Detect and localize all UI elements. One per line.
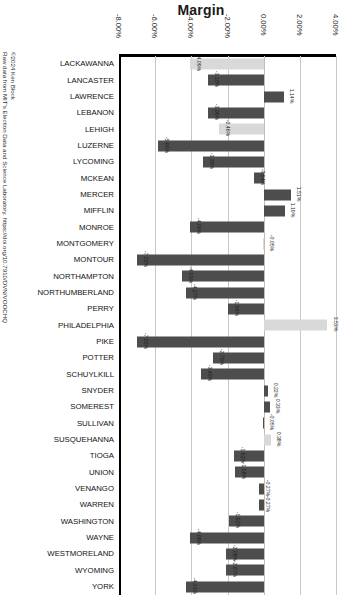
bar-row: 1.51% <box>119 187 336 203</box>
x-tick-label: -6.00% <box>150 14 159 38</box>
bar-mifflin[interactable] <box>264 206 286 217</box>
bar-snyder[interactable] <box>264 385 268 396</box>
bar-washington[interactable] <box>229 516 264 527</box>
bar-row: -4.27% <box>119 285 336 301</box>
x-tick-label: -2.00% <box>223 14 232 38</box>
category-label-snyder: SNYDER <box>82 386 115 395</box>
category-label-luzerne: LUZERNE <box>78 141 114 150</box>
bar-row: -3.38% <box>119 154 336 170</box>
bar-value-label: -0.27% <box>265 480 271 496</box>
category-label-union: UNION <box>89 468 114 477</box>
category-label-warren: WARREN <box>80 500 114 509</box>
category-label-potter: POTTER <box>82 353 114 362</box>
bar-value-label: -4.09% <box>196 55 202 71</box>
bar-value-label: -4.53% <box>188 267 194 283</box>
x-tick-label: 4.00% <box>331 14 340 36</box>
bar-value-label: -3.38% <box>209 153 215 169</box>
category-label-wyoming: WYOMING <box>75 566 114 575</box>
category-label-schuylkill: SCHUYLKILL <box>66 370 114 379</box>
bar-row: -7.02% <box>119 334 336 350</box>
bar-row: 1.19% <box>119 203 336 219</box>
category-label-lehigh: LEHIGH <box>85 125 114 134</box>
bar-value-label: -2.46% <box>225 120 231 136</box>
bar-row: 3.53% <box>119 317 336 333</box>
bar-value-label: -1.58% <box>241 463 247 479</box>
x-tick-label: -8.00% <box>114 14 123 38</box>
bar-row: -1.95% <box>119 301 336 317</box>
bar-rows: -4.09%-3.10%1.14%-3.06%-2.46%-5.85%-3.38… <box>119 56 336 595</box>
bar-value-label: 0.22% <box>273 382 279 397</box>
category-label-northumberland: NORTHUMBERLAND <box>37 288 114 297</box>
bar-value-label: -1.62% <box>241 447 247 463</box>
bar-value-label: -1.92% <box>235 512 241 528</box>
bar-row: -2.79% <box>119 350 336 366</box>
bar-row: -4.08% <box>119 530 336 546</box>
category-label-philadelphia: PHILADELPHIA <box>58 321 114 330</box>
bar-row: -4.31% <box>119 579 336 595</box>
bar-montour[interactable] <box>137 255 264 266</box>
bar-chart: Margin Raw data from MIT's Election Data… <box>0 0 342 598</box>
bar-value-label: -7.02% <box>143 333 149 349</box>
bar-value-label: -4.31% <box>192 578 198 594</box>
bar-row: 0.22% <box>119 383 336 399</box>
bar-union[interactable] <box>235 467 264 478</box>
bar-value-label: -5.85% <box>164 137 170 153</box>
bar-row: -2.08% <box>119 546 336 562</box>
category-label-susquehanna: SUSQUEHANNA <box>54 435 114 444</box>
bar-row: -0.05% <box>119 415 336 431</box>
bar-value-label: -4.09% <box>196 218 202 234</box>
category-label-northampton: NORTHAMPTON <box>53 272 114 281</box>
bar-value-label: 1.19% <box>291 203 297 218</box>
bar-row: -4.09% <box>119 219 336 235</box>
bar-value-label: 1.51% <box>296 186 302 201</box>
bar-pike[interactable] <box>137 336 264 347</box>
category-label-york: YORK <box>92 582 114 591</box>
bar-susquehanna[interactable] <box>264 434 271 445</box>
bar-row: -0.05% <box>119 236 336 252</box>
category-label-washington: WASHINGTON <box>61 517 114 526</box>
bar-tioga[interactable] <box>234 451 263 462</box>
category-label-mercer: MERCER <box>80 190 114 199</box>
category-label-lancaster: LANCASTER <box>67 76 114 85</box>
bar-row: -4.09% <box>119 56 336 72</box>
bar-value-label: -3.45% <box>207 365 213 381</box>
category-label-lebanon: LEBANON <box>77 108 114 117</box>
bar-value-label: -2.07% <box>232 561 238 577</box>
bar-row: -3.10% <box>119 72 336 88</box>
bar-somerest[interactable] <box>264 402 270 413</box>
bar-warren[interactable] <box>259 500 264 511</box>
category-label-perry: PERRY <box>87 304 114 313</box>
category-label-westmoreland: WESTMORELAND <box>47 549 114 558</box>
bar-value-label: 0.38% <box>276 431 282 446</box>
category-label-lackawanna: LACKAWANNA <box>60 59 114 68</box>
bar-philadelphia[interactable] <box>264 320 328 331</box>
category-label-montour: MONTOUR <box>74 255 114 264</box>
bar-row: -1.58% <box>119 464 336 480</box>
category-label-venango: VENANGO <box>75 484 114 493</box>
bar-lawrence[interactable] <box>264 91 285 102</box>
bar-luzerne[interactable] <box>158 140 264 151</box>
bar-value-label: 0.33% <box>275 399 281 414</box>
bar-row: 0.38% <box>119 432 336 448</box>
bar-montgomery[interactable] <box>263 238 264 249</box>
bar-row: -7.02% <box>119 252 336 268</box>
bar-row: -2.07% <box>119 562 336 578</box>
bar-row: 0.33% <box>119 399 336 415</box>
bar-value-label: 1.14% <box>290 88 296 103</box>
bar-sullivan[interactable] <box>263 418 264 429</box>
category-label-mifflin: MIFFLIN <box>84 206 114 215</box>
bar-mercer[interactable] <box>264 189 291 200</box>
bar-row: -1.92% <box>119 513 336 529</box>
bar-row: -0.27% <box>119 481 336 497</box>
category-label-monroe: MONROE <box>79 223 114 232</box>
bar-value-label: -0.27% <box>265 496 271 512</box>
bar-value-label: -4.08% <box>196 529 202 545</box>
bar-row: -0.54% <box>119 170 336 186</box>
bar-row: -0.27% <box>119 497 336 513</box>
bar-value-label: 3.53% <box>333 317 339 332</box>
category-label-sullivan: SULLIVAN <box>77 419 114 428</box>
bar-row: 1.14% <box>119 89 336 105</box>
bar-value-label: -2.79% <box>219 349 225 365</box>
bar-venango[interactable] <box>259 483 264 494</box>
bar-row: -3.45% <box>119 366 336 382</box>
